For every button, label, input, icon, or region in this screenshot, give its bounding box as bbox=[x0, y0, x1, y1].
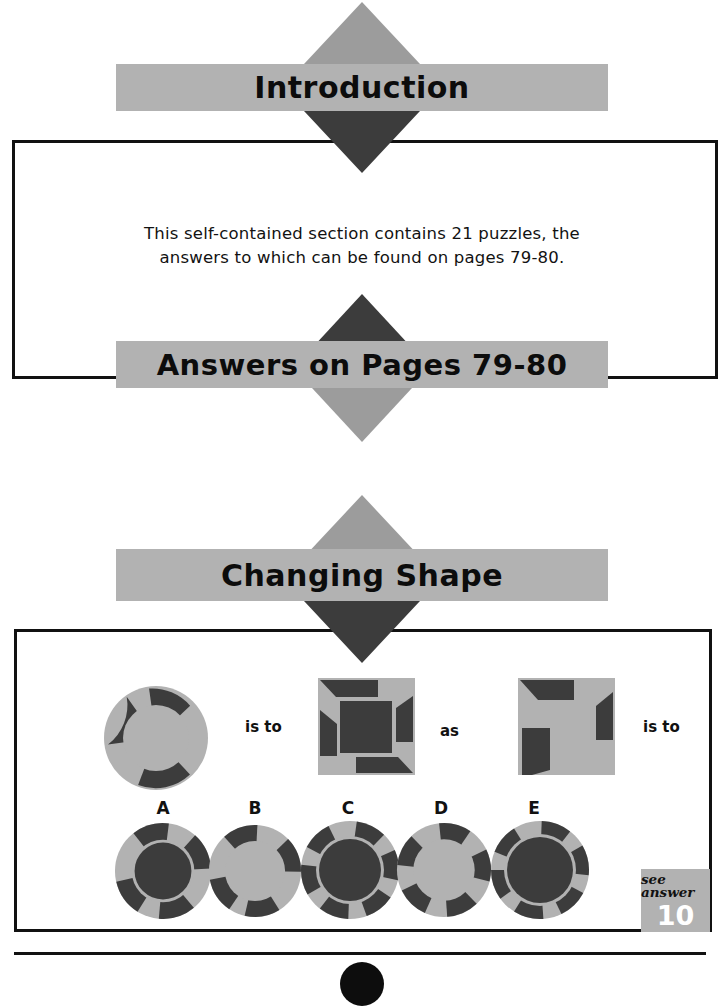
changing-shape-banner-label: Changing Shape bbox=[221, 558, 503, 593]
option-figure-e[interactable] bbox=[490, 820, 590, 920]
connector-is-to-1: is to bbox=[245, 718, 282, 736]
option-label-d: D bbox=[426, 798, 456, 818]
option-label-b: B bbox=[240, 798, 270, 818]
figure-2-svg bbox=[318, 678, 415, 775]
option-label-c: C bbox=[333, 798, 363, 818]
option-a-svg bbox=[114, 822, 212, 920]
introduction-banner: Introduction bbox=[116, 64, 608, 111]
bottom-rule-divider bbox=[14, 952, 706, 955]
option-figure-b[interactable] bbox=[208, 824, 302, 918]
intro-body-text: This self-contained section contains 21 … bbox=[120, 222, 604, 270]
option-figure-a[interactable] bbox=[114, 822, 212, 920]
triangle-up-light-2-icon bbox=[304, 495, 420, 557]
option-c-svg bbox=[300, 820, 400, 920]
see-answer-number: 10 bbox=[657, 902, 695, 929]
option-e-svg bbox=[490, 820, 590, 920]
changing-shape-banner: Changing Shape bbox=[116, 549, 608, 601]
option-label-e: E bbox=[519, 798, 549, 818]
answers-banner: Answers on Pages 79-80 bbox=[116, 341, 608, 388]
option-b-svg bbox=[208, 824, 302, 918]
option-label-a: A bbox=[148, 798, 178, 818]
prompt-figure-2-square bbox=[318, 678, 415, 775]
triangle-up-dark-icon bbox=[312, 294, 412, 348]
see-answer-label: see answer bbox=[641, 873, 710, 900]
figure-3-svg bbox=[518, 678, 615, 775]
option-figure-d[interactable] bbox=[396, 822, 492, 918]
option-d-svg bbox=[396, 822, 492, 918]
connector-as: as bbox=[440, 722, 459, 740]
see-answer-tab[interactable]: see answer 10 bbox=[641, 869, 710, 932]
option-figure-c[interactable] bbox=[300, 820, 400, 920]
introduction-banner-label: Introduction bbox=[254, 70, 469, 105]
triangle-down-light-icon bbox=[312, 388, 412, 442]
triangle-down-dark-2-icon bbox=[304, 601, 420, 663]
connector-is-to-2: is to bbox=[643, 718, 680, 736]
triangle-down-dark-icon bbox=[304, 111, 420, 173]
figure-1-svg bbox=[102, 684, 210, 792]
prompt-figure-1-circle bbox=[102, 684, 210, 792]
triangle-up-light-icon bbox=[304, 2, 420, 64]
page-number-dot bbox=[340, 962, 384, 1006]
prompt-figure-3-square bbox=[518, 678, 615, 775]
answers-banner-label: Answers on Pages 79-80 bbox=[157, 348, 568, 382]
